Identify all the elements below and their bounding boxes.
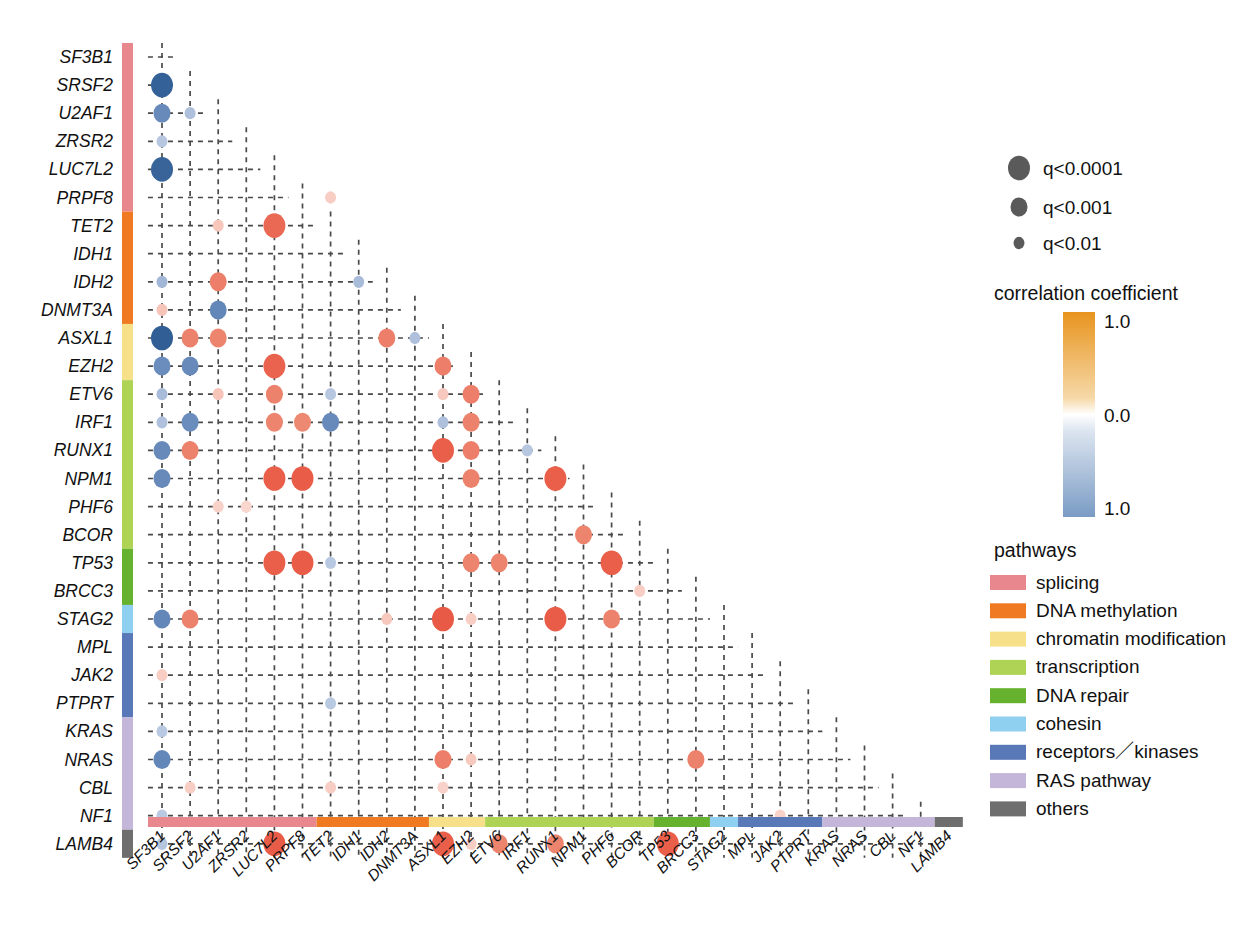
row-label-srsf2: SRSF2 [57,75,114,95]
correlation-dot [157,416,168,428]
row-label-bcor: BCOR [62,525,113,545]
pathway-legend-label: cohesin [1036,713,1102,734]
correlation-dot [292,466,314,491]
figure-canvas: SF3B1SRSF2U2AF1ZRSR2LUC7L2PRPF8TET2IDH1I… [0,0,1254,936]
correlation-dot [182,357,199,376]
correlation-dot [151,157,173,182]
row-label-u2af1: U2AF1 [59,103,113,123]
correlation-dot [151,73,173,98]
correlation-dot [325,697,336,709]
significance-legend-dot [1011,197,1028,216]
correlation-dot [466,753,477,765]
correlation-dot [185,781,196,793]
correlation-dot [435,357,452,376]
correlation-dot [154,609,171,628]
correlation-dot [353,276,364,288]
row-label-tet2: TET2 [70,216,113,236]
correlation-dot [154,104,171,123]
row-label-jak2: JAK2 [70,665,113,685]
row-labels: SF3B1SRSF2U2AF1ZRSR2LUC7L2PRPF8TET2IDH1I… [41,47,114,854]
correlation-dot [544,607,566,632]
correlation-dot [157,388,168,400]
correlation-dot [603,609,620,628]
row-pathway-segment [122,380,133,549]
colorbar-max-label: 1.0 [1104,311,1130,332]
correlation-dot [522,444,533,456]
pathway-legend-swatch [990,575,1026,590]
column-pathway-segment [654,817,710,827]
correlation-dot [182,328,199,347]
row-pathway-segment [122,324,133,380]
correlation-dot [213,500,224,512]
column-pathway-segment [935,817,963,827]
pathway-legend-label: DNA repair [1036,685,1130,706]
correlation-dot [154,469,171,488]
correlation-dot [466,613,477,625]
pathway-legend-swatch [990,688,1026,703]
correlation-dot [544,466,566,491]
correlation-dot [266,413,283,432]
correlation-dot [687,750,704,769]
pathway-legend-label: transcription [1036,656,1140,677]
correlation-dot [154,441,171,460]
pathway-legend-label: others [1036,798,1089,819]
correlation-dot [432,438,454,463]
pathway-legend-swatch [990,660,1026,675]
correlation-dot [432,607,454,632]
correlation-dot [463,469,480,488]
significance-legend-label: q<0.001 [1043,197,1112,218]
row-label-idh2: IDH2 [73,272,113,292]
correlation-dot [154,357,171,376]
correlation-dot [157,725,168,737]
pathway-legend-label: splicing [1036,572,1099,593]
significance-legend-dot [1008,156,1030,181]
significance-legend-dot [1014,237,1025,249]
colorbar-gradient [1063,312,1095,517]
correlation-dot [294,413,311,432]
correlation-dot [463,553,480,572]
correlation-dot [292,550,314,575]
correlation-dot [263,213,285,238]
pathway-legend-swatch [990,745,1026,760]
column-pathway-segment [710,817,738,827]
row-label-etv6: ETV6 [69,384,113,404]
pathway-legend-swatch [990,632,1026,647]
row-pathway-bar [122,43,133,858]
correlation-dot [263,466,285,491]
correlation-dot [263,550,285,575]
correlation-dot [151,326,173,351]
correlation-dot [182,441,199,460]
correlation-dot [378,328,395,347]
colorbar-mid-label: 0.0 [1104,405,1130,426]
row-label-dnmt3a: DNMT3A [41,300,113,320]
colorbar-min-label: 1.0 [1104,498,1130,519]
correlation-dot [157,304,168,316]
correlation-dot [182,413,199,432]
row-label-sf3b1: SF3B1 [60,47,114,67]
row-label-tp53: TP53 [71,553,113,573]
row-pathway-segment [122,605,133,633]
correlation-dot [491,553,508,572]
row-label-kras: KRAS [65,721,113,741]
correlation-dot [210,300,227,319]
correlation-dot [325,781,336,793]
row-pathway-segment [122,549,133,605]
row-label-mpl: MPL [77,637,113,657]
row-label-phf6: PHF6 [68,497,113,517]
correlation-dot [325,557,336,569]
correlation-dot [241,500,252,512]
column-pathway-segment [429,817,485,827]
row-label-idh1: IDH1 [73,244,113,264]
correlation-dot [463,441,480,460]
correlation-dot [182,609,199,628]
pathway-legend-swatch [990,603,1026,618]
row-label-luc7l2: LUC7L2 [49,159,113,179]
pathway-legend-label: receptors／kinases [1036,741,1199,762]
correlation-dot [210,272,227,291]
correlation-dot [157,276,168,288]
pathway-legend-swatch [990,717,1026,732]
correlation-dot [210,328,227,347]
column-pathway-segment [485,817,654,827]
correlation-dot [438,416,449,428]
correlation-dot [157,669,168,681]
